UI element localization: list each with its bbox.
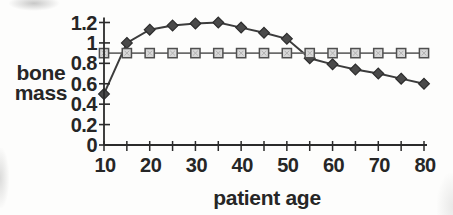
bone-mass-chart: 00.20.40.60.811.2 1020304050607080 bone … <box>0 0 453 215</box>
y-axis-title-line2: mass <box>15 81 68 104</box>
diamond-marker <box>327 59 338 70</box>
y-axis: 00.20.40.60.811.2 <box>71 12 110 157</box>
diamond-marker <box>144 24 155 35</box>
series-reference <box>99 49 428 58</box>
diamond-marker <box>167 20 178 31</box>
x-tick-label: 50 <box>277 154 299 176</box>
y-tick-label: 0.8 <box>71 52 98 74</box>
diamond-marker <box>350 64 361 75</box>
x-tick-label: 70 <box>369 154 391 176</box>
x-tick-label: 30 <box>186 154 208 176</box>
x-tick-label: 20 <box>140 154 162 176</box>
diamond-marker <box>373 68 384 79</box>
bone-mass-figure: 00.20.40.60.811.2 1020304050607080 bone … <box>0 0 453 215</box>
y-tick-label: 0.4 <box>71 93 99 115</box>
x-tick-label: 40 <box>232 154 254 176</box>
x-tick-label: 10 <box>94 154 116 176</box>
diamond-marker <box>419 78 430 89</box>
x-tick-label: 80 <box>414 154 436 176</box>
x-axis-title: patient age <box>213 186 321 209</box>
x-tick-label: 60 <box>323 154 345 176</box>
y-tick-label: 0.6 <box>71 73 98 95</box>
y-tick-label: 1.2 <box>71 12 98 34</box>
diamond-marker <box>190 18 201 29</box>
diamond-marker <box>396 73 407 84</box>
diamond-marker <box>121 38 132 49</box>
diamond-marker <box>213 17 224 28</box>
y-tick-label: 1 <box>86 32 97 54</box>
y-tick-label: 0 <box>86 134 97 156</box>
diamond-marker <box>259 27 270 38</box>
diamond-marker <box>236 22 247 33</box>
y-tick-label: 0.2 <box>71 114 98 136</box>
x-axis: 1020304050607080 <box>94 141 436 176</box>
